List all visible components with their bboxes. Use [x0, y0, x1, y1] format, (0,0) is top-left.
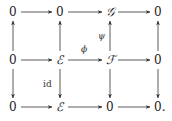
node-r3c2: ℰ [56, 100, 65, 114]
node-r2c2: ℰ [56, 53, 65, 67]
commutative-diagram: ϕψid 00𝒢00ℰℱ00ℰ00. [0, 0, 172, 121]
node-r1c1: 0 [9, 5, 17, 19]
node-r2c1: 0 [9, 53, 17, 67]
node-r1c4: 0 [154, 5, 162, 19]
arrow-label-r2c3-to-r1c3: ψ [98, 31, 106, 41]
node-r1c2: 0 [56, 5, 64, 19]
arrow-label-r2c2-to-r3c2: id [43, 79, 52, 89]
node-r3c1: 0 [9, 100, 17, 114]
node-r1c3: 𝒢 [106, 5, 117, 19]
node-r2c4: 0 [154, 53, 162, 67]
node-r2c3: ℱ [106, 53, 118, 67]
node-r3c4: 0. [154, 100, 165, 114]
arrow-label-r2c2-to-r2c3: ϕ [81, 44, 87, 54]
node-r3c3: 0 [106, 100, 114, 114]
